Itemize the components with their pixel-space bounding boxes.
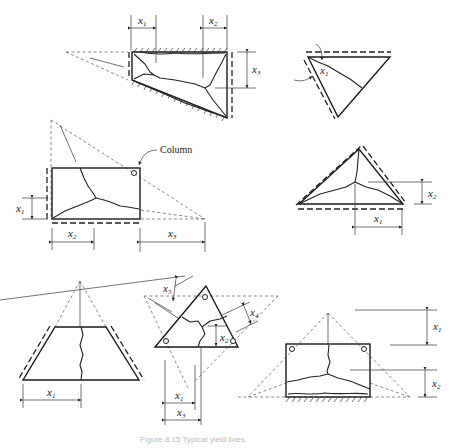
svg-text:x2: x2 (67, 227, 77, 241)
panel-trapezoid-fixed: x1 x2 x3 (66, 14, 261, 121)
panel-trapezoid: x1 (18, 281, 144, 408)
svg-text:x1: x1 (46, 386, 55, 400)
column-marker (132, 171, 137, 176)
panel-rectangle-column: Column x1 x2 x3 (15, 120, 205, 252)
panel-inverted-triangle: x1 (294, 44, 391, 119)
panel-triangle-columns: x5 x4 x2 x1 x3 (0, 276, 278, 425)
svg-text:x2: x2 (427, 187, 437, 201)
column-label: Column (160, 144, 192, 155)
svg-text:x1: x1 (137, 14, 146, 28)
svg-text:x1: x1 (432, 320, 441, 334)
fixed-edge-hatch-bottom (132, 81, 224, 121)
svg-text:x2: x2 (208, 14, 218, 28)
yield-lines-figure: x1 x2 x3 x1 Column x (0, 0, 457, 448)
svg-text:x3: x3 (167, 227, 177, 241)
svg-text:x1: x1 (373, 212, 382, 226)
svg-text:x2: x2 (431, 377, 441, 391)
svg-text:x2: x2 (219, 331, 229, 345)
fixed-edge-hatch (286, 398, 367, 402)
svg-text:x1: x1 (15, 202, 24, 216)
svg-text:x3: x3 (176, 406, 186, 420)
svg-text:x5: x5 (162, 282, 172, 296)
svg-text:x4: x4 (249, 306, 259, 320)
figure-caption: Figure 8.15 Typical yield lines. (140, 435, 247, 444)
panel-triangle-three-edges: x1 x2 (296, 146, 437, 235)
svg-text:x1: x1 (174, 389, 183, 403)
svg-text:x3: x3 (251, 63, 261, 77)
panel-rectangle-two-columns: x1 x2 (238, 310, 441, 402)
